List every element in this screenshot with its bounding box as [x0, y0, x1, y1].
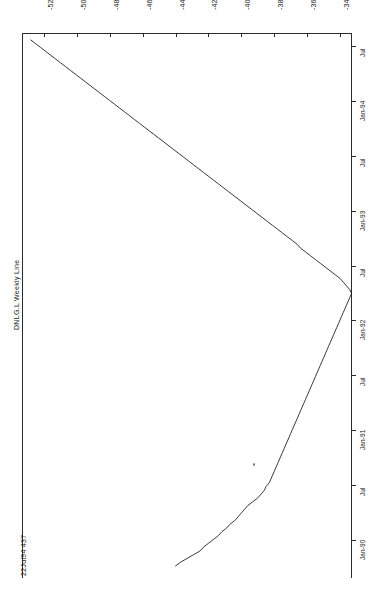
series-title-label: DNLG.L Weekly Line	[13, 260, 20, 330]
chart-canvas: -520-500-480-460-440-420-400-380-360-340…	[0, 0, 388, 596]
stray-mark	[253, 463, 255, 466]
price-line-series	[0, 0, 388, 596]
series-path	[31, 40, 352, 566]
last-quote-label: 22Jul94 437	[20, 535, 27, 576]
